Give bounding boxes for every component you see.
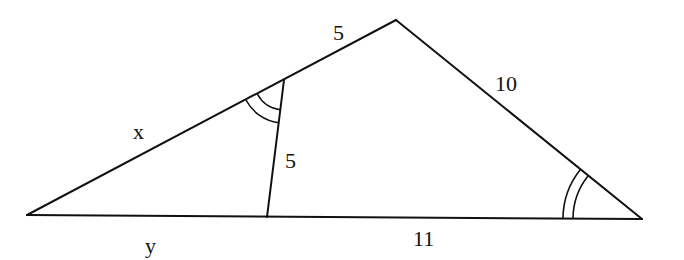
angle-mark-d [246, 94, 280, 123]
label-bc: 10 [495, 71, 517, 96]
side-ab [27, 20, 396, 215]
label-x: x [133, 119, 144, 144]
label-db: 5 [333, 20, 344, 45]
label-y: y [145, 233, 156, 258]
label-ec: 11 [413, 226, 434, 251]
side-ac [27, 215, 642, 219]
side-bc [396, 20, 642, 219]
segment-de [267, 80, 284, 217]
label-de: 5 [285, 148, 296, 173]
angle-mark-c [563, 169, 588, 218]
geometry-diagram: x y 5 5 10 11 [0, 0, 684, 260]
